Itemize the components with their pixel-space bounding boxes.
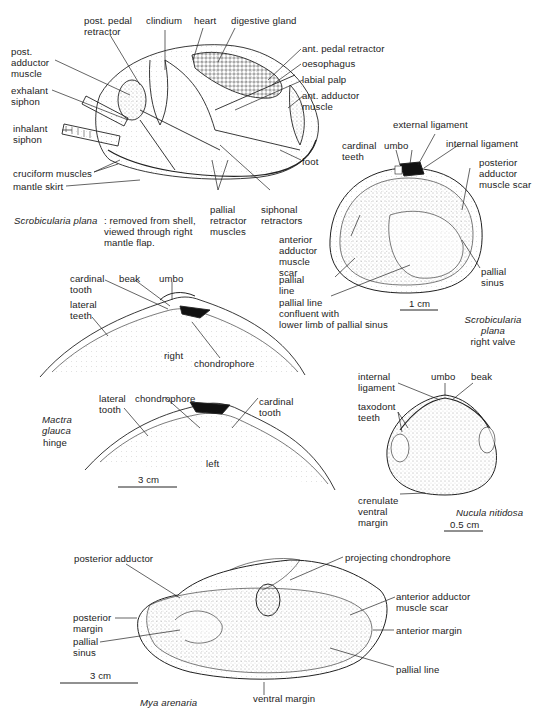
label-cruciform-muscles: cruciform muscles	[13, 168, 92, 179]
scale-bar-1cm-label: 1 cm	[409, 298, 430, 309]
figure-2-species: Scrobicularia plana	[448, 314, 538, 336]
label-left-side: left	[206, 458, 219, 469]
label-right-chondrophore: chondrophore	[194, 358, 254, 369]
label-ant-adductor-muscle: ant. adductor muscle	[302, 90, 359, 112]
label-oesophagus: oesophagus	[302, 58, 355, 69]
label-anterior-adductor-muscle-scar: anterior adductor muscle scar	[279, 234, 317, 278]
label-right-beak: beak	[119, 273, 140, 284]
label-right-umbo: umbo	[159, 273, 183, 284]
nucula-valve-drawing	[387, 395, 497, 495]
label-right-lateral-teeth: lateral teeth	[70, 299, 97, 321]
label-left-lateral-tooth: lateral tooth	[99, 393, 126, 415]
figure-5-species: Mya arenaria	[140, 697, 197, 708]
label-pallial-line-confluent: pallial line confluent with lower limb o…	[279, 297, 388, 330]
scrobicularia-valve-drawing	[330, 162, 482, 293]
label-mya-pallial-sinus: pallial sinus	[73, 636, 98, 658]
label-pallial-line: pallial line	[279, 274, 304, 296]
label-post-pedal-retractor: post. pedal retractor	[84, 15, 132, 37]
label-mya-pallial-line: pallial line	[396, 664, 439, 675]
label-ant-pedal-retractor: ant. pedal retractor	[302, 43, 385, 54]
label-foot: foot	[302, 156, 318, 167]
bivalve-anatomy-plate: post. pedal retractor clindium heart dig…	[0, 0, 542, 717]
label-taxodont-teeth: taxodont teeth	[358, 401, 396, 423]
label-posterior-adductor-muscle-scar: posterior adductor muscle scar	[479, 157, 531, 190]
label-clindium: clindium	[146, 15, 182, 26]
scale-bar-mya-3cm-label: 3 cm	[90, 670, 111, 681]
label-projecting-chondrophore: projecting chondrophore	[345, 552, 451, 563]
figure-3-species: Mactra glauca	[42, 414, 72, 436]
label-nucula-internal-ligament: internal ligament	[358, 371, 395, 393]
label-nucula-beak: beak	[471, 371, 492, 382]
scale-bar-3cm-label: 3 cm	[138, 474, 159, 485]
label-crenulate-ventral-margin: crenulate ventral margin	[358, 495, 398, 528]
label-labial-palp: labial palp	[302, 74, 346, 85]
label-anterior-margin: anterior margin	[396, 625, 462, 636]
label-cardinal-teeth: cardinal teeth	[342, 140, 376, 162]
mactra-left-hinge-drawing	[85, 402, 335, 490]
label-digestive-gland: digestive gland	[231, 15, 297, 26]
label-inhalant-siphon: inhalant siphon	[13, 123, 47, 145]
label-left-chondrophore: chondrophore	[135, 393, 195, 404]
label-ventral-margin: ventral margin	[253, 693, 315, 704]
label-right-cardinal-tooth: cardinal tooth	[70, 273, 104, 295]
figure-1-caption-text: : removed from shell, viewed through rig…	[104, 215, 196, 248]
label-right-side: right	[164, 350, 183, 361]
label-posterior-margin: posterior margin	[73, 612, 111, 634]
label-mantle-skirt: mantle skirt	[13, 181, 63, 192]
label-nucula-umbo: umbo	[431, 371, 455, 382]
label-left-cardinal-tooth: cardinal tooth	[259, 396, 293, 418]
label-post-adductor-muscle: post. adductor muscle	[11, 46, 49, 79]
label-pallial-sinus: pallial sinus	[481, 266, 506, 288]
label-external-ligament: external ligament	[393, 119, 468, 130]
label-heart: heart	[194, 15, 216, 26]
label-internal-ligament: internal ligament	[446, 138, 518, 149]
label-mya-posterior-adductor: posterior adductor	[74, 553, 153, 564]
figure-2-view: right valve	[448, 336, 538, 347]
label-exhalant-siphon: exhalant siphon	[11, 85, 48, 107]
label-umbo: umbo	[384, 140, 408, 151]
figure-3-subtitle: hinge	[43, 437, 67, 448]
label-siphonal-retractors: siphonal retractors	[261, 204, 303, 226]
mya-arenaria-drawing	[138, 558, 387, 679]
caption-species-name: Scrobicularia plana	[14, 215, 98, 226]
label-mya-anterior-adductor-muscle-scar: anterior adductor muscle scar	[396, 591, 470, 613]
scale-bar-05cm-label: 0.5 cm	[450, 519, 479, 530]
figure-4-species: Nucula nitidosa	[456, 507, 523, 518]
scrobicularia-body-drawing	[62, 45, 318, 179]
